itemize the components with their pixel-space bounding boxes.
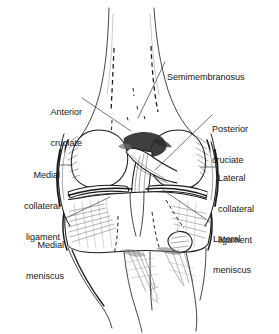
- label-medial-collateral-line2: collateral: [4, 201, 60, 211]
- label-medial-meniscus-line1: Medial: [4, 240, 64, 250]
- label-medial-meniscus-line2: meniscus: [4, 271, 64, 281]
- lower-leg-shafts: [68, 247, 206, 332]
- label-posterior-cruciate-line1: Posterior: [212, 124, 276, 134]
- label-anterior-cruciate-line2: cruciate: [14, 138, 82, 148]
- label-lateral-meniscus-line2: meniscus: [213, 265, 275, 275]
- label-lateral-meniscus-line1: Lateral: [213, 234, 275, 244]
- label-lateral-collateral-line1: Lateral: [218, 173, 276, 183]
- label-semimembranosus[interactable]: Semimembranosus: [167, 51, 245, 103]
- label-lateral-meniscus[interactable]: Lateral meniscus: [213, 213, 275, 296]
- leader-anterior-cruciate: [82, 98, 131, 131]
- label-medial-meniscus[interactable]: Medial meniscus: [4, 219, 64, 302]
- label-medial-collateral-line1: Medial: [4, 170, 60, 180]
- label-anterior-cruciate-line1: Anterior: [14, 107, 82, 117]
- label-semimembranosus-line1: Semimembranosus: [167, 72, 245, 82]
- leader-semimembranosus: [138, 62, 165, 118]
- knee-anatomy-figure: Semimembranosus Anterior cruciate Poster…: [0, 0, 279, 334]
